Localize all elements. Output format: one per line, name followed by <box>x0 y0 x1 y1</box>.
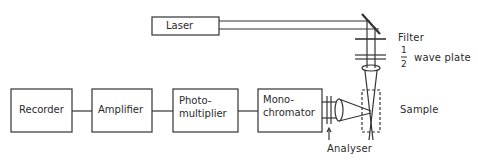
recorder-label: Recorder <box>19 104 64 116</box>
amplifier-label: Amplifier <box>98 104 143 116</box>
filter-label: Filter <box>398 32 424 44</box>
focus-beam-right <box>369 71 377 140</box>
photomultiplier-label-line2: multiplier <box>179 108 227 120</box>
sample-label: Sample <box>400 104 439 116</box>
collection-lens <box>335 99 343 121</box>
monochromator-label-line2: chromator <box>263 107 315 119</box>
collection-beam-top <box>339 99 371 111</box>
collection-beam-bottom <box>339 113 371 121</box>
monochromator-label-line1: Mono- <box>263 94 294 106</box>
focus-beam-left <box>365 71 373 140</box>
half-numerator: 1 <box>401 44 407 56</box>
analyser-label: Analyser <box>327 143 372 155</box>
focusing-lens <box>362 65 380 71</box>
laser-label: Laser <box>166 20 193 32</box>
half-denominator: 2 <box>401 58 407 70</box>
diagram-canvas <box>0 0 478 160</box>
wave-plate-label: wave plate <box>414 52 471 64</box>
photomultiplier-label-line1: Photo- <box>179 95 211 107</box>
mirror <box>362 14 380 34</box>
